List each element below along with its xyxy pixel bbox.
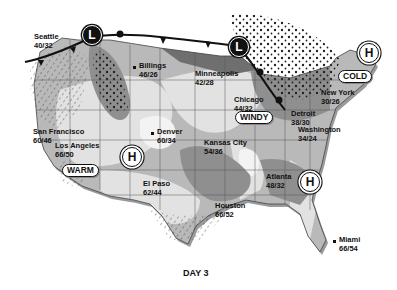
map-caption: DAY 3 [183,268,209,278]
city-denver: Denver60/34 [157,128,182,145]
city-washington: Washington34/24 [298,126,341,143]
city-los-angeles: Los Angeles66/50 [55,142,99,159]
city-miami: Miami66/54 [339,236,360,253]
cold-tag: COLD [338,70,372,83]
city-atlanta: Atlanta48/32 [266,173,291,190]
city-new-york: New York30/26 [321,89,355,106]
warm-tag: WARM [62,164,99,177]
high-pressure-icon: H [359,43,379,63]
high-pressure-icon: H [122,147,142,167]
city-seattle: Seattle40/32 [34,33,59,50]
city-el-paso: El Paso62/44 [143,180,170,197]
city-chicago: Chicago44/32 [234,96,264,113]
city-minneapolis: Minneapolis42/28 [195,70,238,87]
city-kansas-city: Kansas City54/36 [204,139,247,156]
low-pressure-icon: L [82,25,102,45]
low-pressure-icon: L [229,37,249,57]
city-billings: Billings46/26 [139,62,166,79]
city-houston: Houston66/52 [215,202,245,219]
high-pressure-icon: H [300,172,320,192]
